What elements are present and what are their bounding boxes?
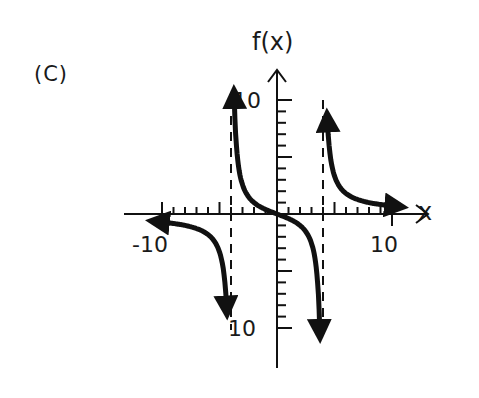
chart-plot <box>0 0 479 398</box>
curve-branch-right <box>327 120 396 206</box>
curve-branch-left <box>157 222 226 308</box>
